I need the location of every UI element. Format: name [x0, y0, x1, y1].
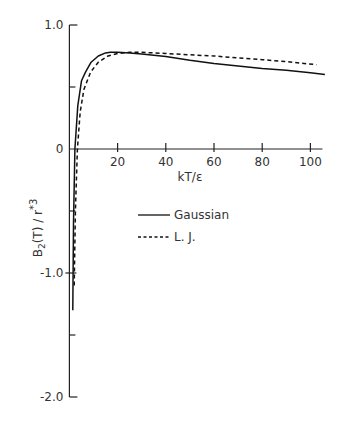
y-axis-label-main: B [31, 249, 45, 257]
x-tick-label: 100 [299, 155, 322, 169]
x-axis-label: kT/ε [178, 170, 203, 184]
x-tick-label: 60 [206, 155, 221, 169]
x-tick-label: 40 [158, 155, 173, 169]
y-tick-label: 0 [56, 142, 64, 156]
legend: GaussianL. J. [138, 208, 229, 244]
b2-virial-coefficient-chart: 1.00-1.0-2.020406080100 GaussianL. J. kT… [0, 0, 340, 424]
x-tick-label: 20 [110, 155, 125, 169]
y-axis-label: B2(T) / r*3 [28, 199, 47, 258]
y-tick-label: -2.0 [40, 390, 63, 404]
legend-label: L. J. [174, 230, 196, 244]
y-axis-label-rest: (T) / r [31, 210, 45, 243]
x-tick-label: 80 [255, 155, 270, 169]
legend-label: Gaussian [174, 208, 229, 222]
y-tick-label: 1.0 [44, 18, 63, 32]
y-axis-label-superscript: *3 [28, 199, 39, 210]
y-tick-label: -1.0 [40, 266, 63, 280]
